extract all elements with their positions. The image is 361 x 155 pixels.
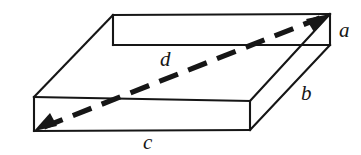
cuboid-diagram-svg	[0, 0, 361, 155]
label-c: c	[143, 132, 152, 153]
label-d: d	[160, 49, 171, 70]
edge-front-bottom	[34, 130, 250, 131]
label-a: a	[339, 20, 350, 41]
diagonal-arrowhead-start	[34, 113, 57, 131]
edge-top-left-slant	[34, 15, 113, 97]
edge-top-front	[34, 97, 250, 101]
space-diagonal-dashed-line	[44, 18, 320, 127]
space-diagonal-group	[34, 14, 330, 131]
label-b: b	[301, 83, 312, 104]
edge-top-back	[113, 14, 330, 15]
geometry-figure-canvas: a b c d	[0, 0, 361, 155]
diagonal-arrowhead-end	[306, 14, 330, 32]
